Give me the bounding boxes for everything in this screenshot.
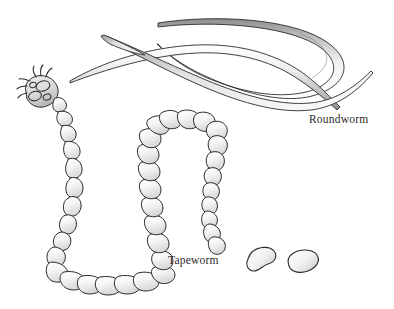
detached-proglottid: [288, 250, 318, 272]
tapeworm-segment: [208, 237, 225, 254]
detached-proglottid: [247, 247, 276, 271]
tapeworm-segment: [63, 196, 81, 216]
tapeworm-segment: [139, 179, 161, 199]
roundworm-label: Roundworm: [309, 114, 368, 126]
tapeworm-segment: [147, 233, 169, 253]
tapeworm-segment: [144, 215, 166, 235]
detached-proglottids: [247, 247, 319, 272]
tapeworm-label: Tapeworm: [168, 255, 219, 267]
tapeworm-segment: [66, 177, 83, 198]
tapeworm-segment: [61, 125, 77, 142]
tapeworm-segment: [141, 197, 163, 217]
tapeworm-segment: [66, 158, 83, 178]
tapeworm-segment: [53, 98, 67, 112]
roundworm-left-spur: [101, 35, 145, 55]
tapeworm-segment: [57, 111, 73, 126]
illustration-figure: Roundworm Tapeworm: [0, 0, 394, 309]
tapeworm-segment: [59, 215, 76, 234]
tapeworm-scolex: [17, 65, 58, 107]
tapeworm-segment: [64, 141, 81, 159]
roundworm-body: [70, 19, 373, 111]
